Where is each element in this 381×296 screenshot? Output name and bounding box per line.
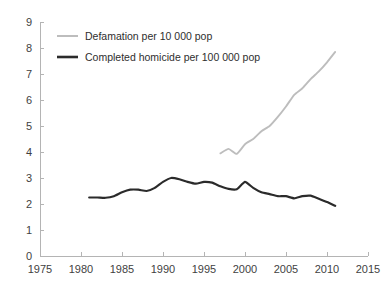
legend-label-defamation: Defamation per 10 000 pop [85, 30, 212, 42]
x-tick-label: 1985 [110, 263, 134, 275]
y-tick-label: 8 [26, 42, 32, 54]
x-tick-label: 2000 [233, 263, 257, 275]
line-chart: 0123456789 19751980198519901995200020052… [0, 0, 381, 296]
x-axis-tick-labels: 197519801985199019952000200520102015 [28, 263, 380, 275]
y-tick-label: 3 [26, 172, 32, 184]
y-tick-label: 0 [26, 250, 32, 262]
x-tick-label: 1975 [28, 263, 52, 275]
y-tick-label: 4 [26, 146, 32, 158]
legend-label-homicide: Completed homicide per 100 000 pop [85, 51, 260, 63]
series-line-homicide [89, 178, 335, 206]
y-axis-tick-labels: 0123456789 [26, 16, 32, 262]
y-tick-label: 7 [26, 68, 32, 80]
y-tick-label: 2 [26, 198, 32, 210]
x-tick-label: 2015 [356, 263, 380, 275]
chart-series-group [89, 52, 335, 206]
y-tick-label: 6 [26, 94, 32, 106]
y-axis: 0123456789 [26, 16, 44, 262]
x-tick-label: 1995 [192, 263, 216, 275]
x-tick-label: 2005 [274, 263, 298, 275]
x-tick-label: 2010 [315, 263, 339, 275]
series-line-defamation [220, 52, 335, 154]
chart-legend: Defamation per 10 000 popCompleted homic… [57, 30, 260, 63]
x-axis: 197519801985199019952000200520102015 [28, 252, 380, 275]
y-tick-label: 5 [26, 120, 32, 132]
y-axis-ticks [40, 22, 44, 256]
chart-container: 0123456789 19751980198519901995200020052… [0, 0, 381, 296]
y-tick-label: 1 [26, 224, 32, 236]
x-tick-label: 1990 [151, 263, 175, 275]
x-tick-label: 1980 [69, 263, 93, 275]
y-tick-label: 9 [26, 16, 32, 28]
x-axis-ticks [40, 252, 368, 256]
